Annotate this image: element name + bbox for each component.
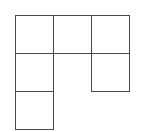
grid-cell-r1-c0	[15, 53, 54, 92]
grid-cell-r0-c2	[91, 15, 130, 54]
grid-cell-r0-c0	[15, 15, 54, 54]
grid-cell-r2-c0	[15, 91, 54, 130]
grid-cell-r1-c2	[91, 53, 130, 92]
grid-cell-r0-c1	[53, 15, 92, 54]
